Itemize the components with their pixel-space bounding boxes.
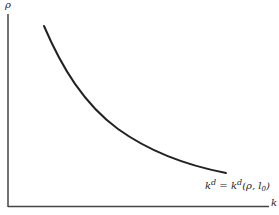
y-axis-label: ρ bbox=[5, 0, 11, 10]
x-axis-label: k bbox=[271, 197, 277, 208]
curve-label-close: ) bbox=[266, 180, 270, 191]
demand-curve bbox=[44, 26, 226, 173]
curve-label: kd = kd(ρ, l0) bbox=[205, 178, 270, 193]
curve-label-equals: = bbox=[216, 180, 231, 191]
curve-label-args: (ρ, l bbox=[242, 180, 261, 191]
